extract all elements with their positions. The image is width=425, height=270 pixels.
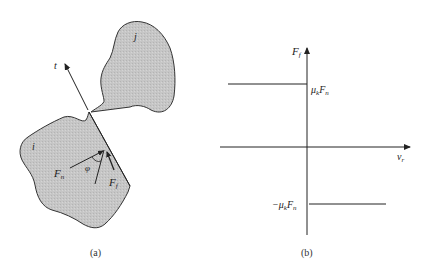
- body-j: [91, 21, 175, 112]
- caption-a: (a): [90, 247, 101, 259]
- tangent-arrow[interactable]: [65, 64, 88, 110]
- body-i-label: i: [32, 141, 35, 152]
- tangent-label: t: [54, 60, 57, 71]
- angle-label: φ: [85, 163, 90, 173]
- caption-b: (b): [301, 247, 313, 259]
- figure-b: Ff vr μkFn −μkFn (b): [220, 45, 410, 259]
- figure-a: t i j φ Fn Ff (a): [20, 21, 175, 259]
- y-axis-label: Ff: [291, 45, 302, 59]
- upper-level-label: μkFn: [310, 84, 329, 97]
- x-axis-label: vr: [397, 151, 404, 164]
- figure-canvas: t i j φ Fn Ff (a) Ff: [0, 0, 425, 270]
- lower-level-label: −μkFn: [272, 199, 297, 212]
